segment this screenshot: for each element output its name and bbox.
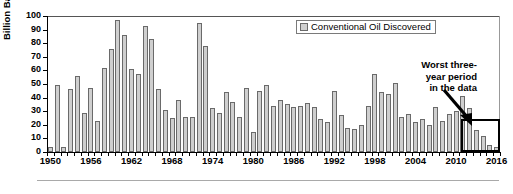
bar — [332, 91, 337, 152]
y-axis-tick — [43, 43, 47, 44]
bar — [285, 104, 290, 152]
bar — [176, 100, 181, 152]
legend-swatch-icon — [300, 23, 308, 31]
bar — [95, 121, 100, 152]
bar — [291, 107, 296, 152]
bar — [433, 107, 438, 152]
bar — [129, 69, 134, 152]
x-axis-tick — [148, 152, 149, 156]
x-axis-tick — [230, 152, 231, 156]
x-axis-tick-label: 1992 — [317, 156, 351, 166]
y-axis-tick — [43, 125, 47, 126]
bar — [102, 68, 107, 152]
bar — [183, 117, 188, 152]
bar — [318, 119, 323, 152]
x-axis-tick-label: 2010 — [439, 156, 473, 166]
bar — [82, 113, 87, 152]
bar — [420, 119, 425, 152]
bar — [163, 110, 168, 152]
legend-label: Conventional Oil Discovered — [311, 22, 431, 32]
x-axis-tick-label: 2016 — [480, 156, 513, 166]
x-axis-tick-label: 1962 — [115, 156, 149, 166]
bar — [136, 74, 141, 152]
y-axis-tick — [43, 84, 47, 85]
x-axis-tick-label: 1968 — [155, 156, 189, 166]
bar — [251, 132, 256, 152]
bar — [203, 46, 208, 152]
bar — [339, 115, 344, 152]
y-axis-tick — [43, 30, 47, 31]
y-axis-tick — [43, 111, 47, 112]
y-axis-tick — [43, 16, 47, 17]
legend: Conventional Oil Discovered — [296, 20, 436, 34]
annotation-line-2: year period — [377, 71, 477, 83]
y-axis-tick — [43, 57, 47, 58]
bar — [271, 106, 276, 152]
bar — [312, 107, 317, 152]
bar — [386, 94, 391, 152]
y-axis-tick-label: 30 — [15, 106, 41, 115]
y-axis-tick-label: 10 — [15, 133, 41, 142]
y-axis-tick-label: 100 — [15, 11, 41, 20]
bar — [237, 117, 242, 152]
bar — [156, 89, 161, 152]
bar — [75, 76, 80, 152]
bar — [149, 39, 154, 152]
y-axis-tick — [43, 138, 47, 139]
bar — [88, 88, 93, 152]
x-axis-tick-label: 1986 — [277, 156, 311, 166]
bar — [230, 102, 235, 152]
bar — [115, 20, 120, 152]
bar — [379, 92, 384, 152]
bar — [305, 103, 310, 152]
chart-container: Billion Barrels 0102030405060708090100 1… — [0, 0, 513, 194]
x-axis-tick — [392, 152, 393, 156]
bar — [427, 125, 432, 152]
bar — [399, 117, 404, 152]
x-axis-tick — [432, 152, 433, 156]
bar — [197, 23, 202, 152]
bar — [109, 49, 114, 152]
bar — [190, 117, 195, 152]
y-axis-tick-label: 20 — [15, 120, 41, 129]
y-axis-tick — [43, 70, 47, 71]
bar — [278, 100, 283, 152]
x-axis-tick — [311, 152, 312, 156]
bottom-divider — [37, 180, 499, 181]
y-axis-line — [47, 16, 48, 152]
y-axis-tick-label: 90 — [15, 25, 41, 34]
bar — [55, 85, 60, 152]
bar — [345, 128, 350, 152]
y-axis-title: Billion Barrels — [2, 28, 12, 40]
x-axis-tick — [67, 152, 68, 156]
x-axis-tick-label: 1980 — [236, 156, 270, 166]
highlight-box — [461, 119, 500, 152]
bar — [143, 26, 148, 152]
bar — [61, 147, 66, 152]
bar — [68, 89, 73, 152]
y-axis-tick-label: 60 — [15, 65, 41, 74]
x-axis-tick-label: 1956 — [74, 156, 108, 166]
bar — [359, 125, 364, 152]
bar — [325, 122, 330, 152]
x-axis-tick-label: 2004 — [398, 156, 432, 166]
bar — [122, 35, 127, 152]
bar — [298, 106, 303, 152]
bar — [406, 114, 411, 152]
y-axis-tick-label: 0 — [15, 147, 41, 156]
x-axis-tick-label: 1950 — [33, 156, 67, 166]
x-axis-tick — [473, 152, 474, 156]
x-axis-tick — [189, 152, 190, 156]
y-axis-tick — [43, 98, 47, 99]
bar — [48, 147, 53, 152]
x-axis-tick — [108, 152, 109, 156]
bar — [170, 118, 175, 152]
bar — [257, 91, 262, 152]
bar — [210, 108, 215, 152]
annotation-line-1: Worst three- — [377, 59, 477, 71]
x-axis-tick — [351, 152, 352, 156]
y-axis-tick-label: 50 — [15, 79, 41, 88]
y-axis-tick-label: 70 — [15, 52, 41, 61]
x-axis-tick-label: 1974 — [196, 156, 230, 166]
bar — [352, 129, 357, 152]
